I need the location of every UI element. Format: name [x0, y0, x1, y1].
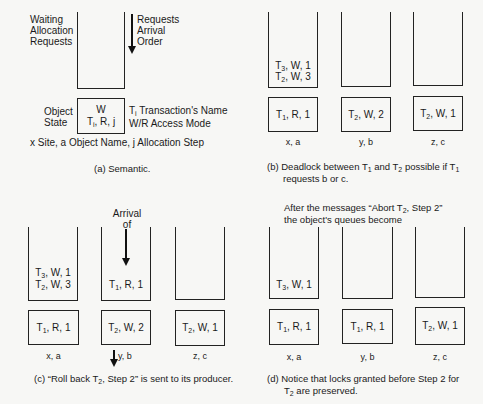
legend: Ti Transaction's Name W/R Access Mode [129, 105, 228, 129]
waiting-entry: T3, W, 1 [29, 267, 77, 278]
waiting-queue-yb [342, 227, 393, 299]
legend-transaction: Ti Transaction's Name [129, 105, 228, 116]
waiting-queue-xa: T3, W, 1 T2, W, 3 [268, 12, 318, 88]
label-line: Arrival [137, 25, 179, 36]
label-line: Allocation [30, 25, 73, 36]
label-line: Object [44, 106, 73, 117]
site-label: y, b [341, 137, 391, 147]
arrival-order-label: Requests Arrival Order [137, 14, 179, 47]
state-box-xa: T1, R, 1 [268, 97, 318, 132]
site-label: y, b [118, 351, 132, 361]
label-line: Requests [137, 14, 179, 25]
arrival-order-arrow [131, 14, 133, 48]
waiting-queue-xa: T3, W, 1 [269, 227, 319, 299]
site-label: x, a [268, 137, 318, 147]
site-label: z, c [413, 137, 463, 147]
state-box-zc: T2, W, 1 [175, 310, 225, 346]
site-label: x, a [28, 351, 79, 361]
state-box-zc: T2, W, 1 [415, 307, 465, 345]
state-box-yb: T1, R, 1 [342, 309, 393, 344]
label-line: Order [137, 36, 179, 47]
state-box-yb: T2, W, 2 [341, 97, 391, 132]
caption-b: (b) Deadlock between T1 and T2 possible … [267, 161, 459, 185]
waiting-queue-yb [341, 12, 391, 87]
waiting-entry: T2, W, 3 [29, 279, 77, 290]
waiting-entry: T3, W, 1 [269, 60, 317, 71]
label-line: State [44, 117, 73, 128]
site-label: y, b [342, 352, 393, 362]
site-label: x, a [269, 352, 319, 362]
state-box-zc: T2, W, 1 [413, 96, 463, 131]
caption-a: (a) Semantic. [94, 163, 151, 175]
state-text: Ti, R, j [87, 116, 115, 128]
arrow-head-icon [128, 46, 136, 54]
arrow-head-icon [110, 359, 118, 367]
caption-d: (d) Notice that locks granted before Ste… [267, 373, 459, 397]
caption-c: (c) “Roll back T2, Step 2” is sent to it… [34, 373, 233, 385]
object-state-box: W Ti, R, j [77, 98, 125, 134]
state-box-xa: T1, R, 1 [269, 309, 319, 345]
waiting-queue-zc [175, 227, 225, 300]
waiting-entry: T1, R, 1 [102, 279, 150, 290]
waiting-entry: T2, W, 3 [269, 71, 317, 82]
header-d: After the messages “Abort T2, Step 2” th… [284, 202, 442, 226]
legend-access-mode: W/R Access Mode [129, 118, 228, 129]
waiting-requests-label: Waiting Allocation Requests [30, 14, 73, 47]
state-box-yb: T2, W, 2 [101, 310, 151, 345]
waiting-queue-yb: T1, R, 1 [101, 227, 151, 301]
state-box-xa: T1, R, 1 [28, 310, 79, 345]
footnote: x Site, a Object Name, j Allocation Step [30, 137, 204, 148]
waiting-queue-zc [413, 12, 463, 86]
label-line: Waiting [30, 14, 73, 25]
waiting-queue-xa: T3, W, 1 T2, W, 3 [28, 227, 78, 301]
waiting-queue-zc [415, 227, 465, 298]
waiting-queue [77, 12, 125, 89]
site-label: z, c [415, 352, 465, 362]
object-state-label: Object State [44, 106, 73, 128]
waiting-entry: T3, W, 1 [270, 279, 318, 290]
site-label: z, c [175, 351, 225, 361]
mode-text: W [96, 104, 105, 116]
label-line: Requests [30, 36, 73, 47]
